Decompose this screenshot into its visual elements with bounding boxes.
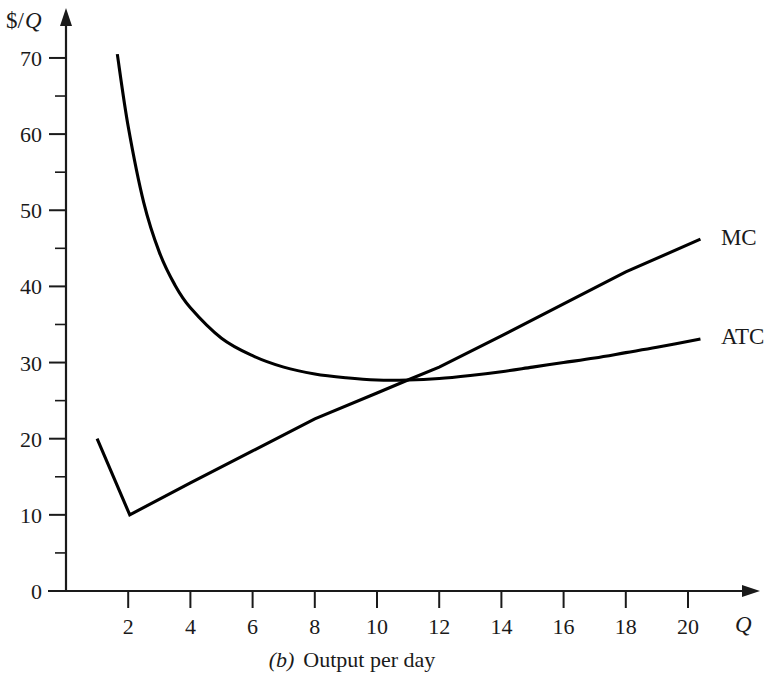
x-tick-label: 20 (677, 614, 699, 639)
cost-curves-figure: 010203040506070 2468101214161820 $/Q Q M… (0, 0, 767, 676)
x-axis-arrow-icon (742, 585, 760, 597)
y-axis-arrow-icon (60, 8, 72, 26)
curve-label-mc: MC (721, 225, 757, 250)
y-tick-label: 70 (20, 46, 42, 71)
y-tick-label: 0 (31, 579, 42, 604)
y-tick-label: 50 (20, 198, 42, 223)
x-tick-label: 8 (309, 614, 320, 639)
curve-paths (97, 54, 700, 515)
x-tick-label: 14 (490, 614, 512, 639)
y-tick-label: 60 (20, 122, 42, 147)
x-axis-title: Q (735, 612, 752, 637)
figure-caption: (b)Output per day (269, 647, 436, 672)
x-tick-label: 12 (428, 614, 450, 639)
x-tick-label: 16 (553, 614, 575, 639)
x-tick-label: 10 (366, 614, 388, 639)
x-tick-marks (128, 591, 688, 608)
y-tick-label: 40 (20, 274, 42, 299)
x-tick-label: 4 (185, 614, 196, 639)
y-tick-label: 20 (20, 427, 42, 452)
x-tick-labels: 2468101214161820 (123, 614, 699, 639)
x-axis-group (48, 585, 760, 597)
x-tick-label: 18 (615, 614, 637, 639)
y-tick-label: 10 (20, 503, 42, 528)
curve-labels: MCATC (721, 225, 764, 349)
y-tick-labels: 010203040506070 (20, 46, 42, 604)
y-tick-marks (49, 58, 66, 591)
y-tick-label: 30 (20, 351, 42, 376)
y-axis-title: $/Q (6, 8, 42, 33)
curve-mc (97, 239, 700, 515)
chart-svg: 010203040506070 2468101214161820 $/Q Q M… (0, 0, 767, 676)
x-tick-label: 6 (247, 614, 258, 639)
curve-label-atc: ATC (721, 324, 764, 349)
x-tick-label: 2 (123, 614, 134, 639)
curve-atc (117, 54, 700, 380)
